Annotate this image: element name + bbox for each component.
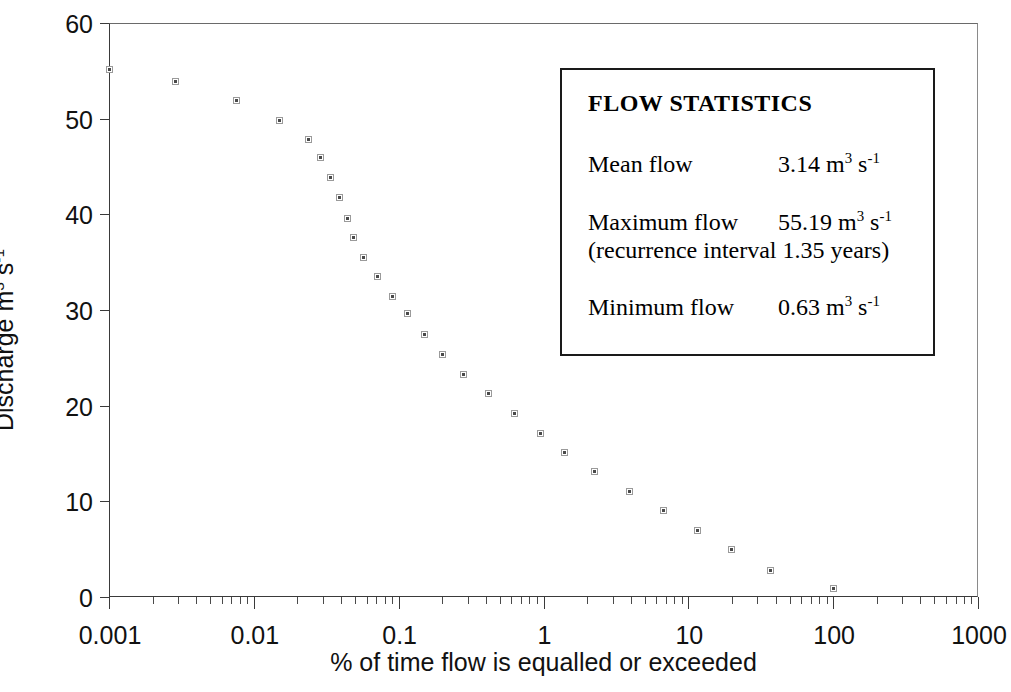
- stat-subnote: (recurrence interval 1.35 years): [588, 237, 933, 265]
- x-tick-label: 100: [813, 623, 855, 648]
- data-point: [327, 174, 334, 181]
- stat-label: Maximum flow: [588, 209, 778, 237]
- stat-row: Maximum flow55.19 m3 s-1(recurrence inte…: [588, 209, 933, 265]
- stat-unit-exponent-minus1: -1: [879, 208, 891, 224]
- x-minor-tick: [902, 597, 903, 604]
- x-minor-tick: [323, 597, 324, 604]
- x-minor-tick: [956, 597, 957, 604]
- x-minor-tick: [231, 597, 232, 604]
- x-minor-tick: [682, 597, 683, 604]
- data-point: [511, 410, 518, 417]
- y-tick-30: 30: [100, 310, 109, 311]
- data-point: [404, 310, 411, 317]
- x-minor-tick: [656, 597, 657, 604]
- x-minor-tick: [732, 597, 733, 604]
- stat-value-number: 0.63: [778, 294, 820, 320]
- x-minor-tick: [666, 597, 667, 604]
- stat-unit-exponent-3: 3: [845, 293, 852, 309]
- x-minor-tick: [376, 597, 377, 604]
- x-tick-0.001: 0.001: [109, 597, 110, 609]
- data-point: [537, 430, 544, 437]
- data-point: [317, 154, 324, 161]
- x-tick-label: 1: [538, 623, 552, 648]
- y-axis-title-exponent-3: 3: [0, 282, 7, 291]
- data-point: [336, 194, 343, 201]
- x-minor-tick: [500, 597, 501, 604]
- x-minor-tick: [827, 597, 828, 604]
- data-point: [344, 215, 351, 222]
- stat-value: 55.19 m3 s-1: [778, 209, 892, 237]
- stat-unit-exponent-3: 3: [845, 150, 852, 166]
- stat-value-number: 55.19: [778, 209, 832, 235]
- x-tick-label: 1000: [951, 623, 1007, 648]
- stat-label: Mean flow: [588, 151, 778, 179]
- stat-unit-second: s: [852, 151, 867, 177]
- x-minor-tick: [511, 597, 512, 604]
- data-point: [728, 546, 735, 553]
- x-axis-title: % of time flow is equalled or exceeded: [109, 650, 978, 675]
- x-minor-tick: [971, 597, 972, 604]
- data-point: [389, 293, 396, 300]
- x-minor-tick: [790, 597, 791, 604]
- x-minor-tick: [222, 597, 223, 604]
- x-minor-tick: [964, 597, 965, 604]
- x-minor-tick: [877, 597, 878, 604]
- x-minor-tick: [442, 597, 443, 604]
- x-minor-tick: [946, 597, 947, 604]
- data-point: [767, 567, 774, 574]
- x-minor-tick: [392, 597, 393, 604]
- x-minor-tick: [674, 597, 675, 604]
- data-point: [694, 527, 701, 534]
- y-axis-title-exponent-minus1: -1: [0, 249, 7, 263]
- stat-unit-metre: m: [832, 209, 857, 235]
- y-tick-10: 10: [100, 501, 109, 502]
- x-minor-tick: [367, 597, 368, 604]
- data-point: [233, 97, 240, 104]
- x-tick-1: 1: [544, 597, 545, 609]
- y-axis-title: Discharge m3 s-1: [0, 130, 17, 550]
- data-point: [374, 273, 381, 280]
- stat-row: Mean flow3.14 m3 s-1: [588, 151, 933, 179]
- x-minor-tick: [196, 597, 197, 604]
- data-point: [106, 66, 113, 73]
- y-tick-label: 0: [79, 586, 93, 611]
- data-point: [350, 234, 357, 241]
- x-minor-tick: [811, 597, 812, 604]
- x-tick-0.01: 0.01: [254, 597, 255, 609]
- y-tick-label: 50: [65, 107, 93, 132]
- x-minor-tick: [757, 597, 758, 604]
- x-minor-tick: [178, 597, 179, 604]
- x-minor-tick: [587, 597, 588, 604]
- data-point: [591, 468, 598, 475]
- x-tick-label: 0.1: [382, 623, 417, 648]
- data-point: [276, 117, 283, 124]
- y-tick-label: 40: [65, 203, 93, 228]
- x-tick-label: 0.001: [79, 623, 142, 648]
- x-minor-tick: [385, 597, 386, 604]
- data-point: [830, 585, 837, 592]
- x-minor-tick: [355, 597, 356, 604]
- stat-unit-exponent-minus1: -1: [867, 293, 879, 309]
- x-minor-tick: [153, 597, 154, 604]
- stat-unit-exponent-3: 3: [857, 208, 864, 224]
- data-point: [485, 390, 492, 397]
- stat-label: Minimum flow: [588, 294, 778, 322]
- y-tick-label: 10: [65, 490, 93, 515]
- x-minor-tick: [341, 597, 342, 604]
- x-minor-tick: [801, 597, 802, 604]
- y-axis-title-base: Discharge m: [0, 291, 18, 431]
- data-point: [421, 331, 428, 338]
- x-minor-tick: [819, 597, 820, 604]
- data-point: [626, 488, 633, 495]
- x-minor-tick: [776, 597, 777, 604]
- data-point: [460, 371, 467, 378]
- stat-value: 0.63 m3 s-1: [778, 294, 880, 322]
- stat-unit-metre: m: [820, 151, 845, 177]
- stat-value-number: 3.14: [778, 151, 820, 177]
- stat-unit-metre: m: [820, 294, 845, 320]
- stat-unit-second: s: [864, 209, 879, 235]
- flow-statistics-box: FLOW STATISTICS Mean flow3.14 m3 s-1Maxi…: [560, 68, 935, 356]
- data-point: [439, 351, 446, 358]
- x-minor-tick: [537, 597, 538, 604]
- x-minor-tick: [529, 597, 530, 604]
